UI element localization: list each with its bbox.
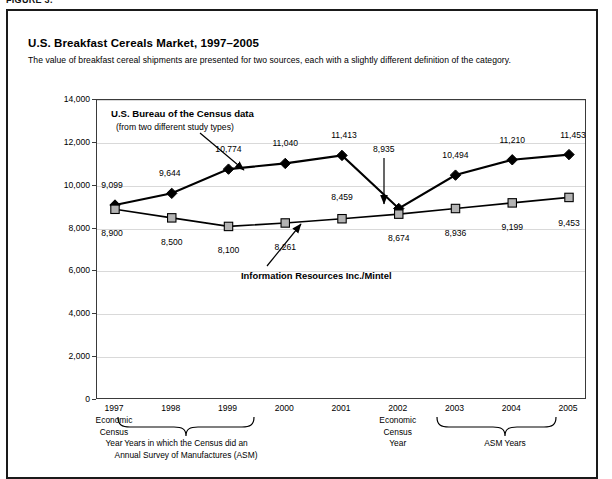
point-label-census-2005: 11,453 bbox=[560, 130, 586, 140]
group-caption-line: Economic bbox=[318, 415, 478, 427]
y-axis-tick-label: 4,000 bbox=[44, 308, 90, 318]
plot-area: 9,0999,64410,77411,04011,41310,49411,210… bbox=[96, 99, 586, 399]
x-axis-tick-label-2000: 2000 bbox=[275, 403, 294, 413]
y-axis-tick-labels: 02,0004,0006,0008,00010,00012,00014,000 bbox=[40, 99, 90, 399]
annotation-census-label: U.S. Bureau of the Census data bbox=[111, 108, 254, 119]
point-label-census-1997: 9,099 bbox=[101, 180, 123, 190]
annotation-iri-label: Information Resources Inc./Mintel bbox=[241, 270, 392, 281]
x-axis-tick-label-1999: 1999 bbox=[218, 403, 237, 413]
point-label-census-2003: 10,494 bbox=[442, 150, 468, 160]
group-caption-line: Years in which the Census did an bbox=[106, 438, 266, 450]
marker-census-1999 bbox=[223, 164, 233, 174]
point-label-iri-2002: 8,674 bbox=[388, 233, 410, 243]
figure-container: U.S. Breakfast Cereals Market, 1997–2005… bbox=[6, 9, 598, 479]
point-label-iri-2001: 8,459 bbox=[331, 192, 353, 202]
group-caption-line: ASM Years bbox=[425, 438, 585, 450]
marker-iri-2000 bbox=[281, 219, 289, 227]
point-label-census-1999: 10,774 bbox=[215, 144, 241, 154]
marker-iri-2003 bbox=[451, 204, 459, 212]
point-label-census-2001: 11,413 bbox=[331, 130, 357, 140]
annotation-census-sublabel: (from two different study types) bbox=[116, 122, 234, 132]
annotation-2002-callout-value: 8,935 bbox=[373, 144, 395, 154]
marker-census-2000 bbox=[280, 158, 290, 168]
y-axis-tick-mark bbox=[92, 399, 96, 400]
group-caption-line: Census bbox=[34, 427, 194, 439]
marker-iri-2002 bbox=[395, 210, 403, 218]
x-axis-tick-label-1998: 1998 bbox=[161, 403, 180, 413]
x-axis-tick-label-2004: 2004 bbox=[502, 403, 521, 413]
point-label-census-2004: 11,210 bbox=[499, 135, 525, 145]
marker-census-2004 bbox=[507, 155, 517, 165]
point-label-iri-2000: 8,261 bbox=[274, 242, 296, 252]
x-axis-tick-label-2002: 2002 bbox=[388, 403, 407, 413]
marker-iri-2004 bbox=[508, 199, 516, 207]
marker-iri-1998 bbox=[168, 214, 176, 222]
marker-census-2003 bbox=[450, 170, 460, 180]
figure-subtitle: The value of breakfast cereal shipments … bbox=[28, 55, 511, 65]
y-axis-tick-label: 0 bbox=[44, 394, 90, 404]
y-axis-tick-label: 12,000 bbox=[44, 137, 90, 147]
marker-iri-1997 bbox=[111, 205, 119, 213]
marker-iri-1999 bbox=[224, 222, 232, 230]
point-label-iri-2005: 9,453 bbox=[558, 218, 580, 228]
point-label-iri-1999: 8,100 bbox=[218, 245, 240, 255]
group-caption-asm-1998-2001: Years in which the Census did anAnnual S… bbox=[106, 438, 266, 461]
point-label-iri-2003: 8,936 bbox=[445, 228, 467, 238]
x-axis-tick-label-1997: 1997 bbox=[104, 403, 123, 413]
point-label-iri-1998: 8,500 bbox=[161, 237, 183, 247]
page-title: U.S. Breakfast Cereals Market, 1997–2005 bbox=[28, 37, 259, 49]
group-caption-line: Census bbox=[318, 427, 478, 439]
marker-census-2005 bbox=[564, 149, 574, 159]
x-axis-tick-label-2003: 2003 bbox=[445, 403, 464, 413]
marker-census-1998 bbox=[167, 188, 177, 198]
y-axis-tick-label: 2,000 bbox=[44, 351, 90, 361]
y-axis-tick-label: 6,000 bbox=[44, 265, 90, 275]
point-label-census-1998: 9,644 bbox=[159, 168, 181, 178]
y-axis-tick-label: 14,000 bbox=[44, 94, 90, 104]
group-caption-line: Economic bbox=[34, 415, 194, 427]
point-label-iri-1997: 8,900 bbox=[101, 228, 123, 238]
point-label-census-2000: 11,040 bbox=[272, 138, 298, 148]
marker-iri-2005 bbox=[565, 193, 573, 201]
marker-iri-2001 bbox=[338, 215, 346, 223]
group-caption-line: Annual Survey of Manufactures (ASM) bbox=[106, 450, 266, 462]
point-label-iri-2004: 9,199 bbox=[501, 222, 523, 232]
figure-number-tag: FIGURE 3. bbox=[6, 0, 53, 3]
group-caption-asm-2003-2005: ASM Years bbox=[425, 438, 585, 450]
x-axis-tick-label-2001: 2001 bbox=[331, 403, 350, 413]
y-axis-tick-label: 8,000 bbox=[44, 223, 90, 233]
y-axis-tick-label: 10,000 bbox=[44, 180, 90, 190]
x-axis-tick-label-2005: 2005 bbox=[558, 403, 577, 413]
series-lines bbox=[97, 100, 587, 400]
